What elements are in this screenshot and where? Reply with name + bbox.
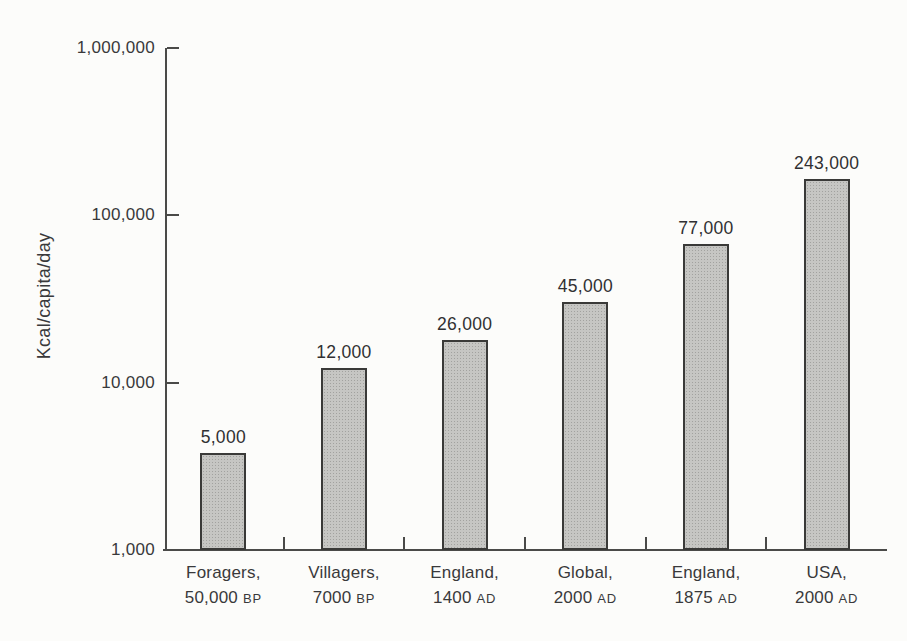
bar-england	[442, 340, 488, 550]
category-date-number: 7000	[313, 588, 352, 607]
x-tick-mark	[283, 537, 285, 550]
y-axis-title: Kcal/capita/day	[34, 233, 55, 360]
y-tick-label: 1,000	[35, 541, 155, 559]
bar-value-label: 77,000	[636, 218, 776, 239]
bar-chart: Kcal/capita/day 1,000,000100,00010,0001,…	[0, 0, 907, 641]
x-category-label: USA,2000 AD	[757, 560, 897, 611]
y-tick-label: 1,000,000	[35, 39, 155, 57]
category-date-number: 50,000	[185, 588, 238, 607]
category-date-number: 1875	[674, 588, 713, 607]
category-era: BP	[356, 591, 375, 606]
x-category-label: Villagers,7000 BP	[274, 560, 414, 611]
bar-foragers	[200, 453, 246, 550]
y-axis-line	[165, 48, 167, 551]
x-category-label: Foragers,50,000 BP	[153, 560, 293, 611]
category-era: BP	[243, 591, 262, 606]
y-tick-mark	[167, 214, 179, 216]
category-date: 50,000 BP	[153, 585, 293, 611]
category-date: 1875 AD	[636, 585, 776, 611]
category-era: AD	[839, 591, 859, 606]
category-name: Foragers,	[153, 560, 293, 585]
category-era: AD	[597, 591, 617, 606]
category-name: Villagers,	[274, 560, 414, 585]
category-date: 7000 BP	[274, 585, 414, 611]
y-tick-mark	[167, 47, 179, 49]
category-era: AD	[718, 591, 738, 606]
bar-england	[683, 244, 729, 550]
bar-global	[562, 302, 608, 550]
category-name: USA,	[757, 560, 897, 585]
category-date-number: 1400	[433, 588, 472, 607]
category-date: 1400 AD	[395, 585, 535, 611]
x-category-label: England,1400 AD	[395, 560, 535, 611]
category-name: England,	[395, 560, 535, 585]
category-era: AD	[477, 591, 497, 606]
y-tick-label: 10,000	[35, 374, 155, 392]
bar-value-label: 12,000	[274, 342, 414, 363]
bar-value-label: 243,000	[757, 153, 897, 174]
category-date: 2000 AD	[515, 585, 655, 611]
y-tick-label: 100,000	[35, 206, 155, 224]
category-name: Global,	[515, 560, 655, 585]
category-date-number: 2000	[554, 588, 593, 607]
x-tick-mark	[645, 537, 647, 550]
category-date: 2000 AD	[757, 585, 897, 611]
y-tick-mark	[167, 382, 179, 384]
bar-villagers	[321, 368, 367, 550]
x-category-label: Global,2000 AD	[515, 560, 655, 611]
category-name: England,	[636, 560, 776, 585]
bar-usa	[804, 179, 850, 550]
x-tick-mark	[524, 537, 526, 550]
bar-value-label: 26,000	[395, 314, 535, 335]
x-tick-mark	[403, 537, 405, 550]
x-category-label: England,1875 AD	[636, 560, 776, 611]
bar-value-label: 45,000	[515, 276, 655, 297]
x-tick-mark	[765, 537, 767, 550]
category-date-number: 2000	[795, 588, 834, 607]
bar-value-label: 5,000	[153, 427, 293, 448]
